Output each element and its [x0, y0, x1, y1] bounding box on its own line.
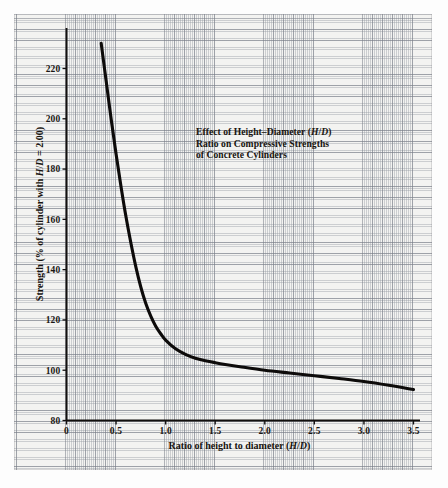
chart-title: Effect of Height–Diameter (H/D) Ratio on… [196, 126, 331, 161]
y-tick-label: 80 [51, 416, 61, 426]
chart-title-line-2: Ratio on Compressive Strengths [196, 138, 331, 150]
y-tick-label: 180 [46, 164, 61, 174]
x-tick-label: 1.5 [209, 426, 222, 436]
x-tick-label: 2.0 [259, 426, 272, 436]
x-tick-label: 3.5 [407, 426, 420, 436]
x-tick-label: 1.0 [159, 426, 172, 436]
x-tick-label: 3.0 [358, 426, 371, 436]
y-tick-label: 160 [46, 215, 61, 225]
axes-group [66, 28, 420, 421]
y-tick-label: 120 [46, 315, 61, 325]
y-axis-title-wrap: Strength (% of cylinder with H/D = 2.00) [29, 84, 47, 344]
y-tick-labels: 80100120140160180200220 [46, 64, 61, 426]
data-curve-strength [101, 43, 413, 389]
x-tick-label: 2.5 [308, 426, 321, 436]
chart-title-line-3: of Concrete Cylinders [196, 149, 331, 161]
tick-marks [63, 69, 414, 425]
y-axis-title: Strength (% of cylinder with H/D = 2.00) [34, 127, 45, 301]
x-axis-title: Ratio of height to diameter (H/D) [66, 440, 413, 451]
y-tick-label: 220 [46, 64, 61, 74]
y-tick-label: 200 [46, 114, 61, 124]
figure-chart-hd-ratio: 00.51.01.52.02.53.03.5 80100120140160180… [0, 0, 448, 488]
chart-title-line-1: Effect of Height–Diameter (H/D) [196, 126, 331, 138]
y-tick-label: 140 [46, 265, 61, 275]
y-tick-label: 100 [46, 366, 61, 376]
x-tick-label: 0 [64, 426, 69, 436]
plot-area: 00.51.01.52.02.53.03.5 80100120140160180… [0, 0, 448, 488]
x-tick-labels: 00.51.01.52.02.53.03.5 [64, 426, 420, 436]
x-tick-label: 0.5 [110, 426, 123, 436]
